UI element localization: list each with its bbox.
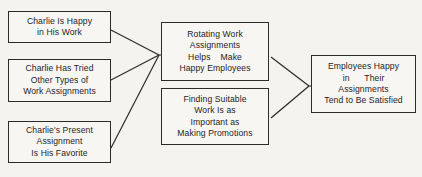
node-text-line: in His Work — [37, 27, 82, 38]
node-text-line: Assignment — [37, 136, 83, 147]
connector-evidence3-to-junction-left — [111, 55, 159, 148]
node-text-line: in Their — [343, 73, 385, 84]
node-text-line: Employees Happy — [328, 61, 399, 72]
node-text-line: Assignments — [190, 40, 240, 51]
node-text-line: Happy Employees — [179, 63, 250, 74]
node-evidence-2: Charlie Has TriedOther Types ofWork Assi… — [8, 59, 111, 102]
node-text-line: Is His Favorite — [31, 148, 87, 159]
connector-generalization1-to-junction-right — [271, 57, 309, 86]
node-text-line: Work Is as — [194, 105, 235, 116]
node-text-line: Charlie Is Happy — [27, 16, 92, 27]
node-generalization-2: Finding SuitableWork Is asImportant asMa… — [161, 88, 269, 145]
node-text-line: Work Assignments — [23, 86, 96, 97]
node-text-line: Assignments — [338, 84, 388, 95]
node-evidence-3: Charlie's PresentAssignmentIs His Favori… — [8, 121, 111, 163]
connector-generalization2-to-junction-right — [271, 86, 309, 118]
node-generalization-1: Rotating WorkAssignmentsHelps MakeHappy … — [161, 22, 269, 81]
flow-diagram: · · · · · · Charlie Is Happyin His Work … — [0, 0, 422, 177]
node-text-line: Rotating Work — [187, 29, 243, 40]
node-text-line: Helps Make — [188, 52, 242, 63]
node-text-line: Finding Suitable — [183, 94, 246, 105]
node-text-line: Charlie's Present — [26, 125, 93, 136]
node-text-line: Important as — [191, 117, 240, 128]
node-conclusion: Employees Happyin TheirAssignmentsTend t… — [311, 55, 416, 113]
connector-evidence2-to-junction-left — [111, 55, 159, 80]
connector-evidence1-to-junction-left — [111, 30, 159, 55]
node-text-line: Making Promotions — [177, 128, 252, 139]
node-text-line: Tend to Be Satisfied — [324, 95, 402, 106]
node-evidence-1: Charlie Is Happyin His Work — [8, 11, 111, 43]
node-text-line: Other Types of — [31, 75, 89, 86]
node-text-line: Charlie Has Tried — [25, 63, 93, 74]
